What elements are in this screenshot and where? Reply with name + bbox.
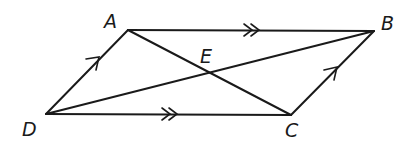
segment-cb	[291, 31, 374, 115]
parallelogram-diagram: A B C D E	[0, 0, 416, 147]
label-e: E	[200, 47, 212, 66]
diagonal-db	[46, 31, 374, 114]
label-c: C	[285, 121, 298, 140]
segment-da	[46, 30, 128, 114]
label-b: B	[381, 14, 394, 33]
single-arrow-icon-cb	[324, 67, 337, 80]
label-a: A	[104, 12, 117, 31]
single-arrow-icon-da	[86, 57, 99, 70]
label-d: D	[22, 120, 37, 139]
diagram-canvas	[0, 0, 416, 147]
